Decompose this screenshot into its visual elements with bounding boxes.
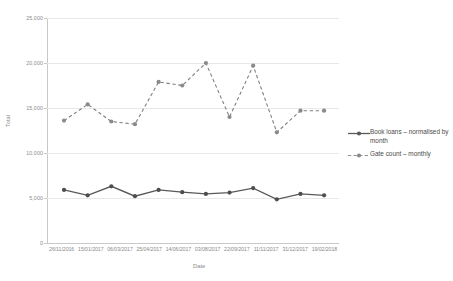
x-axis-tick-label: 25/04/2017 — [136, 246, 161, 252]
data-point-marker — [298, 192, 302, 196]
data-point-marker — [298, 109, 302, 113]
x-axis-tick-label: 06/03/2017 — [107, 246, 132, 252]
data-point-marker — [157, 80, 161, 84]
x-axis-tick-label: 03/08/2017 — [195, 246, 220, 252]
legend-label-book-loans: Book loans – normalised by month — [370, 128, 451, 145]
x-axis-tick-label: 22/09/2017 — [224, 246, 249, 252]
data-point-marker — [275, 130, 279, 134]
data-point-marker — [109, 184, 113, 188]
data-point-marker — [251, 186, 255, 190]
data-point-marker — [275, 197, 279, 201]
data-point-marker — [109, 119, 113, 123]
legend-marker-solid-line-icon — [348, 129, 370, 138]
legend-item-gate-count: Gate count – monthly — [348, 150, 451, 160]
data-point-marker — [180, 190, 184, 194]
series-line-gate-count — [64, 63, 324, 132]
data-point-marker — [86, 193, 90, 197]
data-point-marker — [133, 122, 137, 126]
chart-legend: Book loans – normalised by month Gate co… — [348, 128, 451, 165]
data-point-marker — [227, 115, 231, 119]
data-point-marker — [251, 64, 255, 68]
data-point-marker — [62, 188, 66, 192]
data-point-marker — [204, 61, 208, 65]
data-point-marker — [322, 193, 326, 197]
data-point-marker — [157, 188, 161, 192]
x-axis-tick-label: 31/12/2017 — [282, 246, 307, 252]
legend-label-gate-count: Gate count – monthly — [370, 150, 431, 159]
x-axis-tick-label: 19/02/2018 — [312, 246, 337, 252]
legend-item-book-loans: Book loans – normalised by month — [348, 128, 451, 145]
data-point-marker — [133, 194, 137, 198]
x-axis-tick-label: 26/11/2016 — [49, 246, 74, 252]
x-axis-tick-label: 11/11/2017 — [254, 246, 279, 252]
series-line-book-loans — [64, 186, 324, 199]
data-point-marker — [322, 109, 326, 113]
chart-container: Total Date 05,00010,00015,00020,00025,00… — [0, 0, 453, 281]
legend-marker-dashed-line-icon — [348, 151, 370, 160]
data-point-marker — [227, 191, 231, 195]
x-axis-tick-label: 15/01/2017 — [78, 246, 103, 252]
data-point-marker — [180, 83, 184, 87]
x-axis-tick-label: 14/06/2017 — [166, 246, 191, 252]
data-point-marker — [204, 192, 208, 196]
data-point-marker — [86, 102, 90, 106]
data-point-marker — [62, 119, 66, 123]
line-chart: Total Date 05,00010,00015,00020,00025,00… — [0, 0, 453, 281]
